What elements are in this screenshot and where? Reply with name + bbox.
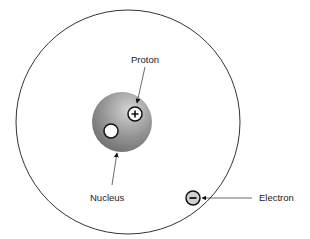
electron [186,191,200,205]
proton-label: Proton [131,54,159,65]
electron-label: Electron [259,192,294,203]
nucleus [92,92,152,152]
atom-diagram: Proton Nucleus Electron [0,0,310,239]
proton [128,107,142,121]
nucleus-label: Nucleus [90,192,125,203]
nucleus-leader [112,153,117,185]
neutron [104,124,118,138]
proton-leader [137,67,145,103]
